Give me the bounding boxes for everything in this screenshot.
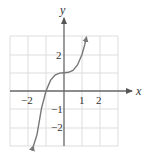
x-axis-label: x xyxy=(135,84,142,98)
x-tick-label-2: 2 xyxy=(96,94,102,106)
x-tick-label-1: 1 xyxy=(79,94,85,106)
cubic-function-graph: x y −2 1 2 2 −1 −2 xyxy=(0,0,149,152)
y-tick-label-2: 2 xyxy=(56,49,62,61)
y-axis-label: y xyxy=(59,3,66,17)
y-tick-label-neg2: −2 xyxy=(51,121,63,133)
y-tick-label-neg1: −1 xyxy=(51,103,63,115)
x-tick-label-neg2: −2 xyxy=(21,94,33,106)
